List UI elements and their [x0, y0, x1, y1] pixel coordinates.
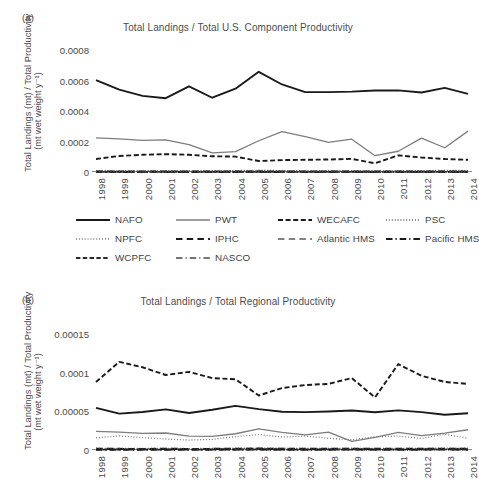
legend-row: NPFCIPHCAtlantic HMSPacific HMS [0, 233, 476, 252]
legend-item-nafo[interactable]: NAFO [76, 214, 143, 225]
x-axis-tick-label: 2010 [375, 176, 386, 198]
y-axis-tick-label: 0.0001 [60, 367, 96, 378]
legend-label: IPHC [215, 233, 239, 244]
x-axis-tick-label: 2006 [282, 454, 293, 476]
legend-row: NAFOPWTWECAFCPSC [0, 214, 476, 233]
series-line-wecafc [96, 154, 468, 163]
x-axis-tick-label: 1999 [119, 454, 130, 476]
legend-label: PSC [425, 214, 445, 225]
legend-item-pwt[interactable]: PWT [176, 214, 237, 225]
legend-label: Pacific HMS [425, 233, 479, 244]
x-axis-tick-label: 2001 [166, 454, 177, 476]
legend-item-npfc[interactable]: NPFC [76, 233, 142, 244]
x-axis-tick-label: 2007 [305, 454, 316, 476]
legend-item-iphc[interactable]: IPHC [176, 233, 239, 244]
x-axis-tick-label: 2009 [352, 176, 363, 198]
panel-a-title: Total Landings / Total U.S. Component Pr… [0, 22, 476, 33]
series-group [96, 334, 468, 450]
x-axis-tick-label: 2004 [236, 454, 247, 476]
x-axis-tick-label: 2009 [352, 454, 363, 476]
chart-panel-b: (b) Total Landings / Total Regional Prod… [0, 292, 476, 489]
x-axis-tick-label: 2004 [236, 176, 247, 198]
legend-swatch-icon [76, 215, 110, 225]
legend-swatch-icon [176, 234, 210, 244]
legend-label: NPFC [115, 233, 142, 244]
x-axis-tick-label: 2008 [329, 454, 340, 476]
x-axis-tick-label: 2011 [398, 454, 409, 475]
panel-a-plot-area: 00.00020.00040.00060.0008199819992000200… [96, 50, 468, 172]
series-line-nafo [96, 406, 468, 415]
series-line-pwt [96, 429, 468, 441]
legend-item-pacific-hms[interactable]: Pacific HMS [386, 233, 479, 244]
y-axis-tick-label: 0.0004 [60, 106, 96, 117]
series-line-psc [96, 448, 468, 449]
legend-item-psc[interactable]: PSC [386, 214, 445, 225]
y-axis-label-line1: Total Landings (mt) / Total Productivity [22, 14, 33, 172]
legend-item-wecafc[interactable]: WECAFC [278, 214, 360, 225]
chart-legend: NAFOPWTWECAFCPSCNPFCIPHCAtlantic HMSPaci… [0, 214, 476, 271]
x-axis-tick-label: 2002 [189, 454, 200, 476]
y-axis-tick-label: 0 [84, 167, 96, 178]
x-axis-tick-label: 2014 [468, 454, 479, 476]
legend-row: WCPFCNASCO [0, 252, 476, 271]
x-axis-tick-label: 2007 [305, 176, 316, 198]
legend-swatch-icon [176, 253, 210, 263]
y-axis-tick-label: 0.00005 [54, 406, 96, 417]
x-axis-tick-label: 2011 [398, 176, 409, 197]
panel-a-y-axis-label: Total Landings (mt) / Total Productivity… [22, 50, 44, 172]
panel-b-plot-area: 00.000050.00010.000151998199920002001200… [96, 334, 468, 450]
x-axis-tick-label: 2013 [445, 454, 456, 476]
x-axis-tick-label: 2013 [445, 176, 456, 198]
legend-swatch-icon [278, 234, 312, 244]
y-axis-tick-label: 0 [84, 445, 96, 456]
x-axis-tick-label: 2003 [212, 454, 223, 476]
legend-label: NAFO [115, 214, 143, 225]
y-axis-tick-label: 0.0006 [60, 75, 96, 86]
legend-swatch-icon [76, 253, 110, 263]
x-axis-tick-label: 2012 [422, 176, 433, 198]
legend-label: Atlantic HMS [317, 233, 375, 244]
x-axis-tick-label: 2005 [259, 454, 270, 476]
series-line-nafo [96, 72, 468, 98]
panel-b-title: Total Landings / Total Regional Producti… [0, 296, 476, 307]
legend-label: NASCO [215, 252, 250, 263]
x-axis-tick-label: 1998 [96, 454, 107, 476]
series-line-npfc [96, 434, 468, 440]
x-axis-tick-label: 2001 [166, 176, 177, 198]
legend-swatch-icon [278, 215, 312, 225]
x-axis-tick-label: 2000 [143, 176, 154, 198]
x-axis-tick-label: 2006 [282, 176, 293, 198]
x-axis-tick-label: 2002 [189, 176, 200, 198]
legend-label: PWT [215, 214, 237, 225]
legend-item-nasco[interactable]: NASCO [176, 252, 250, 263]
y-axis-label-line2: (mt wet weight y⁻¹) [33, 334, 44, 450]
x-axis-tick-label: 2003 [212, 176, 223, 198]
legend-swatch-icon [176, 215, 210, 225]
y-axis-label-line2: (mt wet weight y⁻¹) [33, 50, 44, 172]
x-axis-tick-label: 1999 [119, 176, 130, 198]
y-axis-tick-label: 0.0008 [60, 45, 96, 56]
legend-swatch-icon [386, 215, 420, 225]
x-axis-tick-label: 1998 [96, 176, 107, 198]
legend-label: WECAFC [317, 214, 360, 225]
series-line-psc [96, 170, 468, 171]
x-axis-tick-label: 2010 [375, 454, 386, 476]
panel-b-y-axis-label: Total Landings (mt) / Total Productivity… [22, 334, 44, 450]
y-axis-tick-label: 0.00015 [54, 329, 96, 340]
x-axis-tick-label: 2014 [468, 176, 479, 198]
y-axis-label-line1: Total Landings (mt) / Total Productivity [22, 292, 33, 450]
series-line-pwt [96, 131, 468, 156]
y-axis-tick-label: 0.0002 [60, 136, 96, 147]
series-group [96, 50, 468, 172]
x-axis-tick-label: 2012 [422, 454, 433, 476]
legend-swatch-icon [386, 234, 420, 244]
legend-swatch-icon [76, 234, 110, 244]
legend-item-wcpfc[interactable]: WCPFC [76, 252, 151, 263]
x-axis-tick-label: 2005 [259, 176, 270, 198]
x-axis-tick-label: 2000 [143, 454, 154, 476]
x-axis-tick-label: 2008 [329, 176, 340, 198]
series-line-wecafc [96, 362, 468, 398]
legend-item-atlantic-hms[interactable]: Atlantic HMS [278, 233, 375, 244]
legend-label: WCPFC [115, 252, 151, 263]
